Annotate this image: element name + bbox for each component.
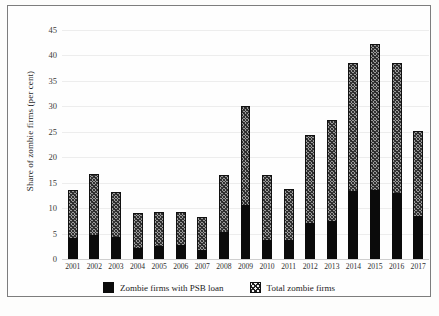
y-tick-label: 10 xyxy=(49,203,58,213)
bar-psb-loan-zombie-firms[interactable] xyxy=(89,235,99,259)
y-tick-label: 45 xyxy=(49,25,58,35)
bar-psb-loan-zombie-firms[interactable] xyxy=(284,240,294,259)
x-tick-label: 2011 xyxy=(281,262,296,271)
y-tick-label: 30 xyxy=(49,101,58,111)
bar-group[interactable]: 2010 xyxy=(262,30,272,259)
bar-group[interactable]: 2005 xyxy=(154,30,164,259)
x-tick-label: 2009 xyxy=(238,262,253,271)
figure-frame: Share of zombie firms (per cent) 0510152… xyxy=(7,5,431,297)
y-tick-label: 35 xyxy=(49,76,58,86)
bar-group[interactable]: 2016 xyxy=(392,30,402,259)
bar-group[interactable]: 2017 xyxy=(413,30,423,259)
y-tick-label: 25 xyxy=(49,127,58,137)
bar-psb-loan-zombie-firms[interactable] xyxy=(197,250,207,259)
y-tick-label: 20 xyxy=(49,152,58,162)
x-tick-label: 2004 xyxy=(130,262,145,271)
bar-psb-loan-zombie-firms[interactable] xyxy=(413,216,423,259)
bar-group[interactable]: 2001 xyxy=(68,30,78,259)
bar-group[interactable]: 2011 xyxy=(284,30,294,259)
x-tick-label: 2001 xyxy=(65,262,80,271)
legend-item-total: Total zombie firms xyxy=(250,282,335,293)
bar-group[interactable]: 2004 xyxy=(133,30,143,259)
x-tick-label: 2006 xyxy=(173,262,188,271)
bar-psb-loan-zombie-firms[interactable] xyxy=(111,237,121,259)
bar-psb-loan-zombie-firms[interactable] xyxy=(241,205,251,259)
bar-group[interactable]: 2013 xyxy=(327,30,337,259)
gridline xyxy=(62,259,429,260)
bars-layer: 2001200220032004200520062007200820092010… xyxy=(62,30,429,259)
bar-psb-loan-zombie-firms[interactable] xyxy=(370,190,380,259)
bar-group[interactable]: 2003 xyxy=(111,30,121,259)
legend-swatch-solid-icon xyxy=(103,282,114,293)
x-tick-label: 2014 xyxy=(346,262,361,271)
bar-group[interactable]: 2009 xyxy=(241,30,251,259)
legend-swatch-hatched-icon xyxy=(250,282,261,293)
bar-psb-loan-zombie-firms[interactable] xyxy=(305,223,315,259)
x-tick-label: 2005 xyxy=(152,262,167,271)
y-tick-label: 0 xyxy=(53,254,57,264)
figure-container: Share of zombie firms (per cent) 0510152… xyxy=(0,0,439,316)
x-tick-label: 2013 xyxy=(324,262,339,271)
bar-psb-loan-zombie-firms[interactable] xyxy=(68,238,78,259)
x-tick-label: 2003 xyxy=(108,262,123,271)
bar-psb-loan-zombie-firms[interactable] xyxy=(348,191,358,259)
bar-group[interactable]: 2012 xyxy=(305,30,315,259)
y-axis-title: Share of zombie firms (per cent) xyxy=(25,46,35,216)
bar-group[interactable]: 2014 xyxy=(348,30,358,259)
bar-psb-loan-zombie-firms[interactable] xyxy=(262,240,272,259)
x-tick-label: 2007 xyxy=(195,262,210,271)
y-tick-label: 40 xyxy=(49,50,58,60)
bar-psb-loan-zombie-firms[interactable] xyxy=(176,245,186,259)
x-tick-label: 2012 xyxy=(303,262,318,271)
x-tick-label: 2016 xyxy=(389,262,404,271)
bar-group[interactable]: 2007 xyxy=(197,30,207,259)
x-tick-label: 2010 xyxy=(259,262,274,271)
y-tick-label: 5 xyxy=(53,229,57,239)
y-tick-label: 15 xyxy=(49,178,58,188)
chart-legend: Zombie firms with PSB loan Total zombie … xyxy=(8,282,430,293)
x-tick-label: 2017 xyxy=(411,262,426,271)
legend-label-total: Total zombie firms xyxy=(267,283,335,293)
x-tick-label: 2002 xyxy=(87,262,102,271)
plot-area: 051015202530354045 200120022003200420052… xyxy=(62,30,429,259)
x-tick-label: 2008 xyxy=(216,262,231,271)
bar-psb-loan-zombie-firms[interactable] xyxy=(327,221,337,259)
bar-group[interactable]: 2002 xyxy=(89,30,99,259)
bar-group[interactable]: 2008 xyxy=(219,30,229,259)
bar-group[interactable]: 2015 xyxy=(370,30,380,259)
legend-item-psb: Zombie firms with PSB loan xyxy=(103,282,224,293)
bar-psb-loan-zombie-firms[interactable] xyxy=(133,248,143,259)
x-tick-label: 2015 xyxy=(367,262,382,271)
legend-label-psb: Zombie firms with PSB loan xyxy=(120,283,224,293)
bar-psb-loan-zombie-firms[interactable] xyxy=(392,193,402,259)
bar-psb-loan-zombie-firms[interactable] xyxy=(154,246,164,259)
bar-psb-loan-zombie-firms[interactable] xyxy=(219,232,229,259)
bar-group[interactable]: 2006 xyxy=(176,30,186,259)
